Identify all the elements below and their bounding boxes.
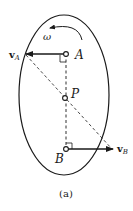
rigid-body-diagram: ω A P B vA vB (a) — [0, 0, 133, 211]
point-a-marker — [64, 52, 69, 57]
velocity-label-a: vA — [8, 49, 20, 62]
point-b-marker — [64, 147, 69, 152]
point-b-label: B — [54, 152, 64, 166]
dashed-line-velocity-tips — [26, 55, 112, 149]
point-a-label: A — [74, 48, 84, 62]
figure-caption: (a) — [59, 188, 73, 199]
omega-label: ω — [43, 31, 51, 42]
velocity-label-b: vB — [116, 143, 128, 156]
point-p-marker — [63, 96, 68, 101]
omega-rotation-arrow-icon — [50, 27, 82, 41]
point-p-label: P — [70, 87, 80, 101]
